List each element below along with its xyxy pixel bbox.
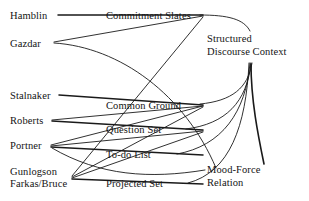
node-portner[interactable]: Portner (10, 140, 42, 153)
node-mood-force-relation[interactable]: Mood-Force Relation (207, 164, 261, 189)
node-gazdar[interactable]: Gazdar (10, 38, 41, 51)
discourse-structure-diagram: Hamblin Gazdar Stalnaker Roberts Portner… (0, 0, 309, 201)
node-question-set[interactable]: Question Set (106, 124, 161, 137)
node-farkas-bruce[interactable]: Farkas/Bruce (10, 178, 67, 191)
node-roberts[interactable]: Roberts (10, 115, 43, 128)
node-commitment-slates[interactable]: Commitment Slates (106, 10, 191, 23)
node-projected-set[interactable]: Projected Set (106, 178, 163, 191)
node-common-ground[interactable]: Common Ground (106, 100, 181, 113)
node-hamblin[interactable]: Hamblin (10, 10, 47, 23)
node-gunlogson[interactable]: Gunlogson (10, 166, 57, 179)
node-stalnaker[interactable]: Stalnaker (10, 90, 51, 103)
node-to-do-list[interactable]: To-do List (106, 149, 151, 162)
edge-common-ground-structured-discourse-context (200, 63, 252, 104)
edge-commitment-slates-structured-discourse-context (200, 15, 250, 31)
edge-structured-discourse-context-mood-force-relation (251, 64, 264, 164)
edge-to-do-list-structured-discourse-context (177, 63, 250, 154)
node-structured-discourse-context[interactable]: Structured Discourse Context (207, 33, 287, 58)
